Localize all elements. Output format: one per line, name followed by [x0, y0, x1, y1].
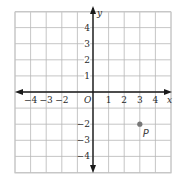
x-tick-label: −3: [40, 95, 54, 105]
y-tick-label: 4: [84, 23, 90, 33]
x-tick-label: 4: [153, 95, 159, 105]
y-tick-label: −2: [77, 119, 90, 129]
point-label-p: P: [143, 128, 150, 139]
x-tick-label: 2: [121, 95, 127, 105]
y-tick-label: 1: [84, 71, 90, 81]
point-p: [137, 122, 142, 127]
y-axis-down-arrow-icon: [90, 165, 96, 173]
origin-label: O: [84, 95, 92, 105]
y-tick-label: 2: [84, 55, 90, 65]
x-tick-label: −2: [55, 95, 68, 105]
y-tick-label: −4: [77, 151, 91, 161]
y-axis-up-arrow-icon: [90, 6, 96, 14]
y-tick-label: 3: [84, 39, 90, 49]
axes: [15, 6, 172, 173]
x-tick-label: 1: [106, 95, 112, 105]
y-axis-label: y: [96, 8, 103, 18]
x-axis-label: x: [167, 95, 172, 105]
coordinate-plane: −4−3−21234 4321−2−3−4 x y O P: [0, 0, 180, 179]
x-axis-left-arrow-icon: [15, 89, 23, 95]
x-tick-label: −4: [24, 95, 38, 105]
y-tick-label: −3: [77, 135, 91, 145]
x-tick-label: 3: [137, 95, 143, 105]
